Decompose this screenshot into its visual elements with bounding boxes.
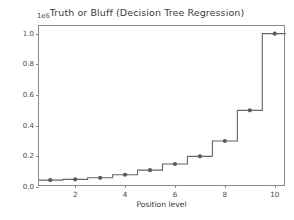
data-point-marker	[273, 32, 277, 36]
x-tick-mark	[175, 185, 176, 188]
x-tick-label: 8	[223, 190, 228, 199]
x-axis-label: Position level	[38, 200, 285, 209]
chart-figure: Truth or Bluff (Decision Tree Regression…	[0, 0, 294, 220]
data-point-marker	[223, 139, 227, 143]
y-tick-label: 0.0	[23, 183, 34, 191]
y-tick-mark	[36, 64, 39, 65]
plot-area: 0.00.20.40.60.81.0 246810	[38, 25, 285, 186]
x-tick-mark	[75, 185, 76, 188]
y-tick-mark	[36, 34, 39, 35]
data-point-markers	[48, 32, 277, 183]
y-tick-mark	[36, 156, 39, 157]
data-point-marker	[248, 108, 252, 112]
x-tick-label: 6	[173, 190, 178, 199]
y-tick-mark	[36, 187, 39, 188]
y-tick-label: 0.4	[23, 122, 34, 130]
decision-tree-step-path	[39, 34, 286, 180]
y-tick-label: 0.6	[23, 91, 34, 99]
data-point-marker	[148, 168, 152, 172]
x-tick-mark	[125, 185, 126, 188]
data-point-marker	[198, 154, 202, 158]
y-axis-offset-text: 1e6	[37, 12, 50, 20]
y-tick-mark	[36, 95, 39, 96]
y-tick-mark	[36, 126, 39, 127]
x-tick-label: 4	[123, 190, 128, 199]
y-tick-label: 0.2	[23, 152, 34, 160]
x-tick-label: 2	[73, 190, 78, 199]
data-point-marker	[98, 176, 102, 180]
data-point-marker	[123, 173, 127, 177]
step-line-series	[39, 26, 286, 187]
y-tick-label: 1.0	[23, 30, 34, 38]
y-tick-label: 0.8	[23, 60, 34, 68]
x-tick-label: 10	[270, 190, 279, 199]
x-tick-mark	[225, 185, 226, 188]
data-point-marker	[173, 162, 177, 166]
data-point-marker	[73, 177, 77, 181]
x-tick-mark	[275, 185, 276, 188]
data-point-marker	[48, 178, 52, 182]
